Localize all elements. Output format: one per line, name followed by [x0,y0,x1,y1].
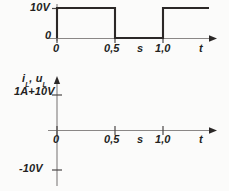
bottom-y-max-label: 1A+10V [14,86,55,97]
bottom-y-zero-label: 0 [53,134,59,145]
bottom-xtick-label-05: 0,5 [104,134,120,145]
signal-u: , u [29,72,42,84]
bottom-y-axis-arrow-icon [54,76,60,84]
bottom-x-axis-arrow-icon [209,127,217,133]
top-xtick-label-05: 0,5 [104,43,120,54]
top-x-axis-arrow-icon [209,35,217,41]
top-y-zero-label: 0 [45,30,51,41]
bottom-plot-axes [48,76,217,186]
top-square-wave-trace [57,8,209,38]
bottom-y-min-label: -10V [19,163,43,174]
bottom-xtick-label-10: 1,0 [155,134,171,145]
top-x-unit-label: s [137,43,143,54]
top-y-max-label: 10V [30,2,50,13]
top-xtick-label-10: 1,0 [155,43,171,54]
top-x-axis-label: t [199,43,203,54]
top-xtick-label-0: 0 [53,43,59,54]
bottom-x-unit-label: s [137,134,143,145]
waveform-figure: 10V 0 0 0,5 s 1,0 t iL, uL 1A+10V 0 0,5 … [0,0,229,191]
bottom-x-axis-label: t [199,134,203,145]
